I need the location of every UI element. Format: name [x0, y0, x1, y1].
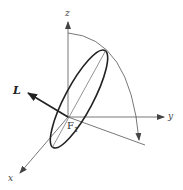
diagram-graphics	[0, 0, 183, 190]
x-axis-label: x	[8, 174, 13, 183]
major-axis-line	[52, 50, 106, 148]
angular-momentum-vector	[28, 93, 68, 117]
focus-letter: F	[67, 120, 74, 131]
inclination-arc	[68, 33, 139, 140]
focus-label: F1	[67, 121, 78, 134]
vector-label: L	[13, 85, 21, 96]
projection-line	[68, 117, 145, 145]
z-axis-label: z	[65, 9, 70, 18]
focus-subscript: 1	[74, 126, 78, 134]
orbit-diagram: z y x L F1	[0, 0, 183, 190]
y-axis-label: y	[168, 112, 173, 121]
